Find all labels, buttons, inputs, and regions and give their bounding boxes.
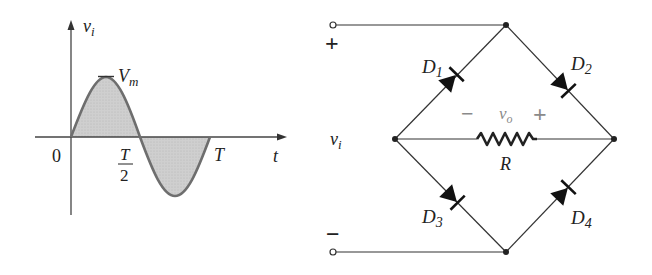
period-label: T — [214, 145, 226, 165]
output-voltage-label: vo — [499, 104, 513, 126]
half-period-denominator: 2 — [120, 166, 129, 185]
half-period-numerator: T — [120, 145, 131, 164]
bridge-rectifier-circuit: D1 D2 D3 D4 − vo + R + − vi — [325, 22, 617, 255]
y-axis-label: vi — [83, 16, 95, 39]
node-top — [503, 22, 509, 28]
y-axis-arrow-icon — [68, 20, 75, 30]
diode-d2-label: D2 — [570, 53, 592, 77]
diode-d4-label: D4 — [570, 207, 592, 231]
input-waveform-plot: vi Vm 0 T 2 T t — [35, 16, 287, 215]
output-minus-sign: − — [461, 101, 474, 126]
node-left — [392, 136, 398, 142]
output-plus-sign: + — [533, 101, 547, 127]
node-right — [611, 136, 617, 142]
input-voltage-label: vi — [330, 129, 342, 152]
resistor-r — [477, 133, 537, 145]
origin-label: 0 — [52, 146, 61, 166]
x-axis-arrow-icon — [277, 134, 287, 141]
peak-label: Vm — [118, 66, 138, 89]
resistor-label: R — [499, 154, 511, 174]
node-bottom — [503, 249, 509, 255]
input-plus-sign: + — [325, 30, 339, 56]
diode-d1-label: D1 — [421, 56, 443, 80]
diode-d3-label: D3 — [421, 206, 443, 230]
x-axis-label: t — [273, 146, 279, 166]
diagram-canvas: vi Vm 0 T 2 T t — [0, 0, 652, 275]
top-input-terminal — [330, 22, 336, 28]
bottom-input-terminal — [330, 249, 336, 255]
input-minus-sign: − — [326, 221, 340, 247]
